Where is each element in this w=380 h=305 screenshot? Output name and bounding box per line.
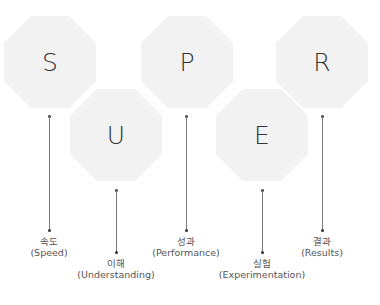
connector-dot-bottom-r bbox=[321, 229, 324, 232]
octagon-e: E bbox=[216, 89, 308, 181]
connector-dot-bottom-s bbox=[48, 229, 51, 232]
label-u: 이해 (Understanding) bbox=[56, 258, 176, 280]
letter-e: E bbox=[254, 121, 270, 150]
letter-u: U bbox=[107, 121, 125, 150]
letter-p: P bbox=[179, 48, 194, 77]
connector-line-r bbox=[322, 116, 323, 230]
label-r: 결과 (Results) bbox=[262, 236, 380, 258]
connector-line-p bbox=[186, 116, 187, 230]
label-p: 성과 (Performance) bbox=[126, 236, 246, 258]
label-korean-s: 속도 bbox=[0, 236, 109, 247]
label-korean-r: 결과 bbox=[262, 236, 380, 247]
connector-dot-bottom-p bbox=[185, 229, 188, 232]
label-english-u: (Understanding) bbox=[56, 269, 176, 280]
letter-s: S bbox=[42, 48, 58, 77]
label-english-e: (Experimentation) bbox=[202, 269, 322, 280]
label-korean-u: 이해 bbox=[56, 258, 176, 269]
label-korean-e: 실험 bbox=[202, 258, 322, 269]
octagon-r: R bbox=[276, 16, 368, 108]
connector-dot-bottom-u bbox=[115, 251, 118, 254]
connector-line-s bbox=[49, 116, 50, 230]
label-korean-p: 성과 bbox=[126, 236, 246, 247]
octagon-u: U bbox=[70, 89, 162, 181]
label-english-r: (Results) bbox=[262, 247, 380, 258]
letter-r: R bbox=[313, 48, 330, 77]
label-e: 실험 (Experimentation) bbox=[202, 258, 322, 280]
label-english-s: (Speed) bbox=[0, 247, 109, 258]
octagon-s: S bbox=[4, 16, 96, 108]
label-s: 속도 (Speed) bbox=[0, 236, 109, 258]
label-english-p: (Performance) bbox=[126, 247, 246, 258]
octagon-p: P bbox=[141, 16, 233, 108]
connector-line-u bbox=[116, 190, 117, 252]
